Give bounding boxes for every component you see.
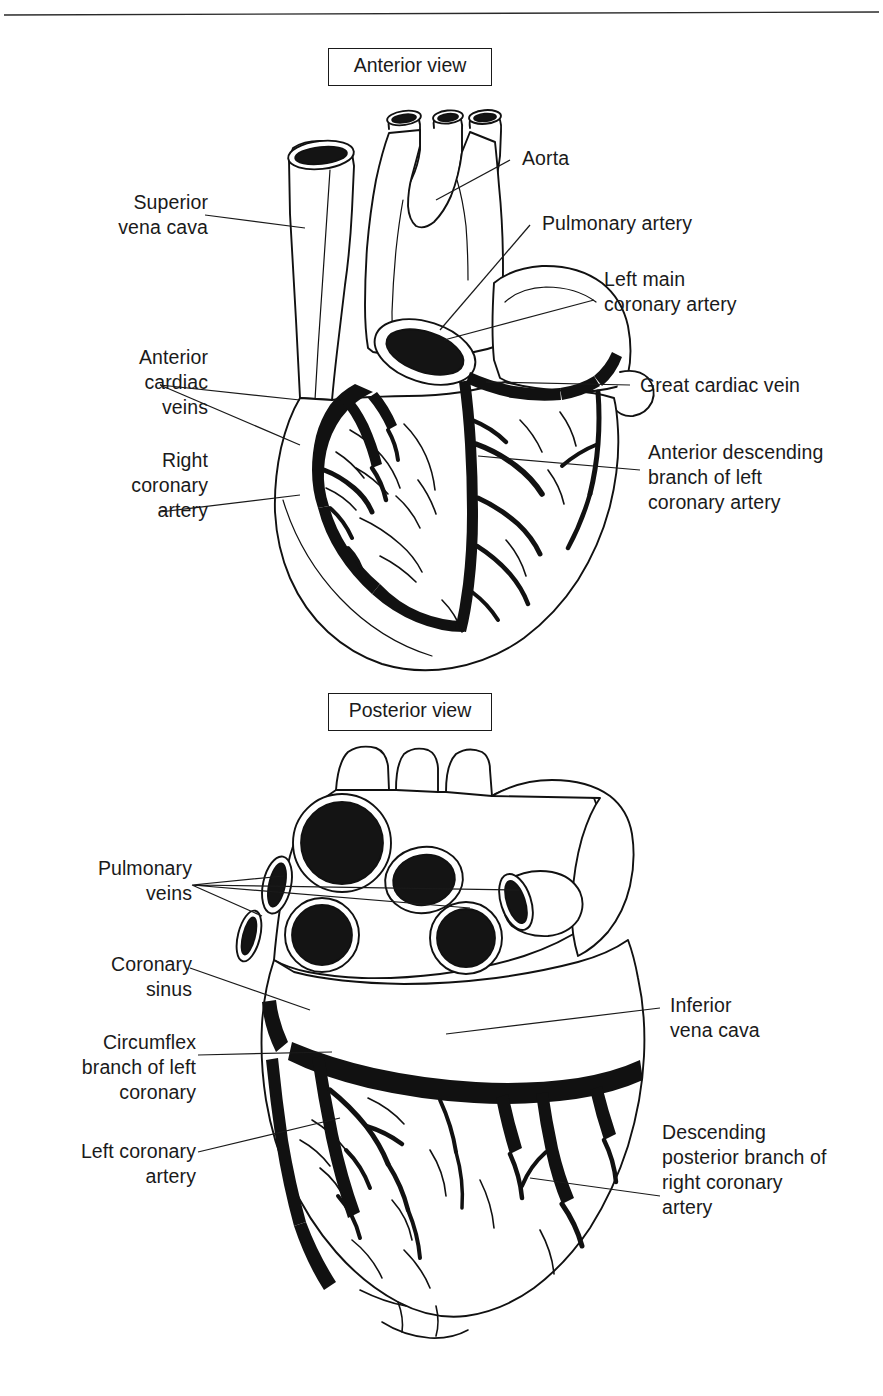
anterior-view-title-text: Anterior view bbox=[354, 56, 467, 76]
posterior-view-title-text: Posterior view bbox=[349, 701, 471, 721]
posterior-heart-drawing bbox=[232, 747, 644, 1338]
label-anterior-cardiac-veins: Anterior cardiac veins bbox=[30, 345, 208, 420]
pulmonary-vein-lumen-4 bbox=[437, 909, 495, 967]
anterior-view-title-box: Anterior view bbox=[328, 48, 492, 86]
pulmonary-vein-lumen-3 bbox=[292, 905, 352, 965]
posterior-apex-detail bbox=[382, 1322, 468, 1338]
posterior-view-title-box: Posterior view bbox=[328, 693, 492, 731]
label-left-main-coronary-artery: Left main coronary artery bbox=[604, 267, 874, 317]
posterior-vessel-stump-right bbox=[446, 749, 492, 796]
label-anterior-descending-branch: Anterior descending branch of left coron… bbox=[648, 440, 880, 515]
label-circumflex-branch: Circumflex branch of left coronary bbox=[2, 1030, 196, 1105]
label-pulmonary-artery: Pulmonary artery bbox=[542, 211, 842, 236]
posterior-vessel-stump-left bbox=[336, 747, 389, 790]
pulmonary-vein-lumen-1 bbox=[301, 802, 383, 884]
label-right-coronary-artery: Right coronary artery bbox=[30, 448, 208, 523]
posterior-apex-detail-2 bbox=[398, 1302, 403, 1332]
heart-anatomy-figure: Anterior view Posterior view Superior ve… bbox=[0, 0, 883, 1396]
label-descending-posterior-branch: Descending posterior branch of right cor… bbox=[662, 1120, 880, 1220]
label-coronary-sinus: Coronary sinus bbox=[10, 952, 192, 1002]
top-divider-rule bbox=[4, 12, 879, 15]
label-superior-vena-cava: Superior vena cava bbox=[30, 190, 208, 240]
anterior-heart-drawing bbox=[275, 109, 654, 671]
label-left-coronary-artery: Left coronary artery bbox=[2, 1139, 196, 1189]
superior-vena-cava-vessel bbox=[289, 141, 354, 400]
posterior-apex-detail-3 bbox=[436, 1306, 438, 1336]
label-aorta: Aorta bbox=[522, 146, 772, 171]
label-inferior-vena-cava: Inferior vena cava bbox=[670, 993, 870, 1043]
posterior-vessel-stump-mid bbox=[396, 749, 438, 792]
label-great-cardiac-vein: Great cardiac vein bbox=[640, 373, 880, 398]
label-pulmonary-veins: Pulmonary veins bbox=[10, 856, 192, 906]
